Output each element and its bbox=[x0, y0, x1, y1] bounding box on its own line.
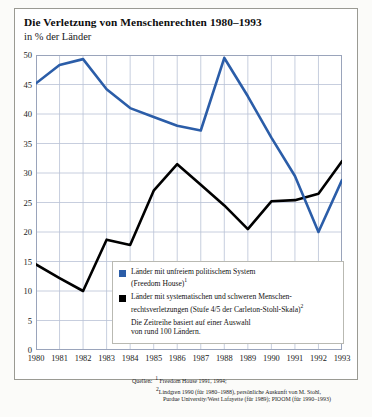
x-tick-1987: 1987 bbox=[192, 354, 209, 363]
y-tick-10: 10 bbox=[23, 286, 32, 296]
x-tick-1991: 1991 bbox=[287, 354, 304, 363]
y-tick-15: 15 bbox=[23, 257, 32, 267]
x-tick-1985: 1985 bbox=[145, 354, 162, 363]
legend-black-footnote: 2 bbox=[301, 303, 304, 309]
page-title: Die Verletzung von Menschenrechten 1980–… bbox=[24, 16, 262, 28]
x-tick-1986: 1986 bbox=[169, 354, 186, 363]
sources-line-3: Purdue University/West Lafayette (für 19… bbox=[163, 396, 370, 404]
x-tick-1988: 1988 bbox=[216, 354, 233, 363]
x-tick-1993: 1993 bbox=[334, 354, 351, 363]
sources-line-2: Lindgren 1990 (für 1980–1988), persönlic… bbox=[159, 389, 321, 395]
y-tick-30: 30 bbox=[23, 168, 32, 178]
legend-note-line2: von rund 100 Ländern. bbox=[131, 327, 201, 336]
legend-item-unfree-political-system: Länder mit unfreiem politischem System (… bbox=[119, 267, 337, 288]
legend-label-black: Länder mit systematischen und schweren M… bbox=[131, 292, 303, 313]
x-tick-1980: 1980 bbox=[28, 354, 45, 363]
sources-marker-1: 1 bbox=[155, 375, 158, 381]
x-tick-1990: 1990 bbox=[263, 354, 280, 363]
legend-blue-line2: (Freedom House) bbox=[131, 279, 184, 288]
x-tick-1984: 1984 bbox=[122, 354, 139, 363]
legend-note-line1: Die Zeitreihe basiert auf einer Auswahl bbox=[131, 318, 251, 327]
legend-label-blue: Länder mit unfreiem politischem System (… bbox=[131, 267, 255, 288]
y-tick-20: 20 bbox=[23, 227, 32, 237]
x-tick-1983: 1983 bbox=[98, 354, 115, 363]
x-tick-1992: 1992 bbox=[310, 354, 327, 363]
sources-line-2-wrap: 2Lindgren 1990 (für 1980–1988), persönli… bbox=[156, 386, 370, 397]
sources-line-1: Freedom House 1991, 1994; bbox=[160, 378, 227, 384]
page-root: Die Verletzung von Menschenrechten 1980–… bbox=[0, 0, 372, 417]
legend-swatch-black bbox=[119, 295, 126, 302]
y-tick-25: 25 bbox=[23, 198, 32, 208]
x-tick-1981: 1981 bbox=[51, 354, 68, 363]
legend-black-line1: Länder mit systematischen und schweren M… bbox=[131, 292, 292, 301]
x-tick-1982: 1982 bbox=[75, 354, 92, 363]
legend-blue-line1: Länder mit unfreiem politischem System bbox=[131, 267, 255, 276]
y-tick-50: 50 bbox=[23, 50, 32, 60]
y-tick-45: 45 bbox=[23, 80, 32, 90]
y-tick-5: 5 bbox=[28, 316, 32, 326]
sources-note: Quellen:1 Freedom House 1991, 1994; 2Lin… bbox=[132, 375, 370, 404]
sources-label: Quellen: bbox=[132, 378, 152, 384]
legend-item-severe-violations: Länder mit systematischen und schweren M… bbox=[119, 292, 337, 313]
y-tick-40: 40 bbox=[23, 109, 32, 119]
y-tick-35: 35 bbox=[23, 139, 32, 149]
legend-blue-footnote: 1 bbox=[184, 277, 187, 283]
x-tick-1989: 1989 bbox=[239, 354, 256, 363]
page-subtitle: in % der Länder bbox=[24, 31, 91, 42]
legend-note: Die Zeitreihe basiert auf einer Auswahl … bbox=[131, 318, 337, 337]
legend-black-line2: rechtsverletzungen (Stufe 4/5 der Carlet… bbox=[131, 304, 301, 313]
legend-swatch-blue bbox=[119, 270, 126, 277]
chart-legend: Länder mit unfreiem politischem System (… bbox=[112, 261, 344, 344]
